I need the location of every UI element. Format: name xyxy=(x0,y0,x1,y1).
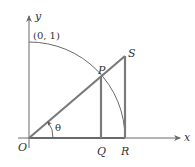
y-intercept-label: (0, 1) xyxy=(33,30,60,41)
point-label-P: P xyxy=(97,64,106,77)
point-label-Q: Q xyxy=(97,145,106,158)
point-label-O: O xyxy=(18,141,27,154)
angle-arc xyxy=(48,122,53,138)
unit-circle-diagram: y x (0, 1) O P Q R S θ xyxy=(0,0,195,167)
point-label-S: S xyxy=(128,47,136,60)
segment-OS xyxy=(29,56,125,138)
point-label-R: R xyxy=(120,145,129,158)
unit-circle-arc xyxy=(29,42,125,138)
angle-label-theta: θ xyxy=(55,122,61,133)
y-axis-label: y xyxy=(34,10,42,23)
x-axis-label: x xyxy=(184,131,191,144)
